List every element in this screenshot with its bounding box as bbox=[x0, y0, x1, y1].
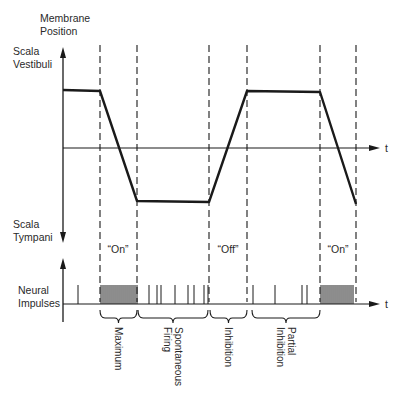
response-label: Inhibition bbox=[223, 327, 234, 367]
arrow-right-icon bbox=[369, 301, 380, 307]
time-axis-label: t bbox=[385, 142, 388, 154]
arrow-up-icon bbox=[60, 47, 66, 58]
neural-time-axis-label: t bbox=[385, 298, 388, 310]
scala-vestibuli-label-line1: Scala bbox=[13, 45, 39, 57]
neural-impulses-axis bbox=[60, 258, 380, 322]
y-axis-title-line2: Position bbox=[40, 25, 78, 37]
brace-icon bbox=[138, 310, 208, 323]
response-label: Maximum bbox=[113, 327, 124, 370]
svg-text:Inhibition: Inhibition bbox=[275, 327, 286, 367]
cochlear-neural-response-diagram: Membrane Position Scala Vestibuli Scala … bbox=[0, 0, 407, 401]
scala-tympani-label-line2: Tympani bbox=[13, 231, 53, 243]
arrow-right-icon bbox=[369, 145, 380, 151]
brace-icon bbox=[100, 310, 137, 323]
neural-impulses-label-line1: Neural bbox=[18, 284, 49, 296]
svg-text:Partial: Partial bbox=[286, 327, 297, 355]
arrow-up-icon bbox=[60, 258, 66, 269]
membrane-position-axis bbox=[60, 47, 66, 243]
neural-impulse-spikes bbox=[78, 285, 353, 304]
response-label: SpontaneousFiring bbox=[162, 327, 184, 386]
phase-boundaries bbox=[100, 45, 356, 302]
svg-text:Inhibition: Inhibition bbox=[223, 327, 234, 367]
phase-label: “Off” bbox=[218, 243, 239, 255]
svg-text:Spontaneous: Spontaneous bbox=[173, 327, 184, 386]
scala-tympani-label-line1: Scala bbox=[13, 218, 39, 230]
phase-label: “On” bbox=[108, 243, 130, 255]
brace-icon bbox=[210, 310, 247, 323]
phase-labels: “On”“Off”“On” bbox=[108, 243, 350, 255]
svg-text:Maximum: Maximum bbox=[113, 327, 124, 370]
response-braces: MaximumSpontaneousFiringInhibitionPartia… bbox=[100, 310, 320, 386]
svg-text:Firing: Firing bbox=[162, 327, 173, 352]
scala-vestibuli-label-line2: Vestibuli bbox=[13, 58, 52, 70]
response-label: PartialInhibition bbox=[275, 327, 297, 367]
brace-icon bbox=[252, 310, 320, 323]
arrow-down-icon bbox=[60, 232, 66, 243]
neural-impulses-label-line2: Impulses bbox=[18, 297, 60, 309]
phase-label: “On” bbox=[328, 243, 350, 255]
membrane-time-axis bbox=[63, 145, 380, 151]
y-axis-title-line1: Membrane bbox=[40, 12, 90, 24]
